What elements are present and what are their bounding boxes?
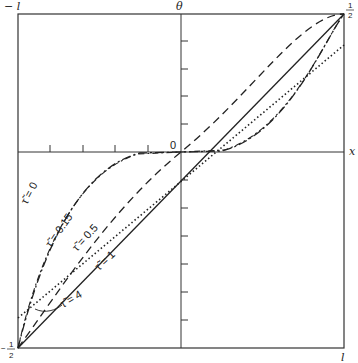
label-x-axis: x: [349, 145, 356, 158]
x-axis-ticks: [50, 145, 148, 152]
label-y-axis: θ: [176, 0, 183, 13]
label-top-right-den: 2: [348, 11, 353, 20]
label-top-left: − l: [4, 0, 21, 13]
curve-label-tau-4: τ̃ = 4: [58, 288, 84, 310]
curve-label-tau-1: τ̃ = 1: [92, 248, 117, 272]
curve-label-tau-0.5: τ̃ = 0.5: [70, 221, 100, 253]
label-bottom-left-den: 2: [9, 351, 14, 360]
curve-label-tau-0: τ̃ = 0: [18, 180, 39, 206]
label-top-right-num: 1: [348, 1, 353, 10]
curve-label-tau-0.15: τ̃ = 0.15: [43, 211, 75, 249]
label-bottom-right: l: [341, 351, 345, 363]
chart-plot: − l θ 1 2 0 x − 1 2 l τ̃ = 0 τ̃ = 0.15 τ…: [0, 0, 358, 363]
label-bottom-left-sign: −: [1, 344, 6, 353]
label-origin: 0: [170, 139, 176, 151]
label-bottom-left-num: 1: [9, 340, 14, 349]
